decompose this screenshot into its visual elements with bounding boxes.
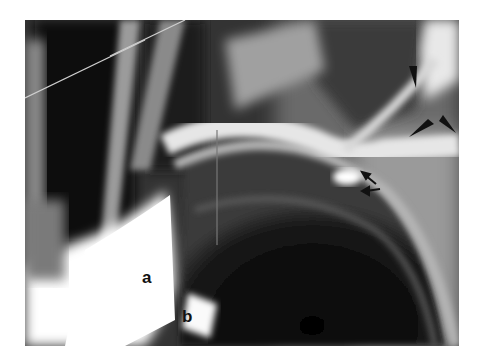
radiograph-svg	[25, 20, 459, 346]
label-a: a	[142, 268, 151, 288]
label-b: b	[182, 307, 192, 327]
radiograph-image: a b	[25, 20, 459, 346]
